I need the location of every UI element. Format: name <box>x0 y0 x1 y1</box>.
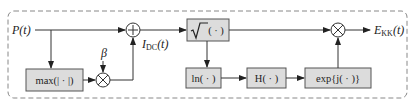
idc-label: IDC(t) <box>141 37 168 52</box>
output-label: EKK(t) <box>373 23 404 38</box>
ln-label: ln( · ) <box>192 73 216 85</box>
multiply-operator-output <box>331 23 345 37</box>
sqrt-arg-label: ( · ) <box>208 25 224 37</box>
mult-to-sum-line <box>110 38 133 80</box>
exp-label: exp{j( · )} <box>316 73 360 85</box>
hilbert-label: H( · ) <box>255 73 279 85</box>
multiply-operator-beta <box>96 73 110 87</box>
max-abs-label: max(| · |) <box>35 75 74 87</box>
beta-label: β <box>100 46 107 60</box>
sum-operator <box>126 23 140 37</box>
kk-receiver-diagram: P(t) max(| · |) β IDC(t) ( · ) ln( · <box>0 0 416 107</box>
input-label: P(t) <box>11 23 31 37</box>
